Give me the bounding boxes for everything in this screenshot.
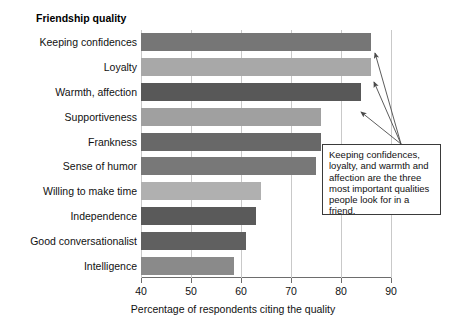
tick-70 xyxy=(291,278,292,283)
bar xyxy=(141,58,371,76)
bar-row xyxy=(141,83,391,101)
x-axis-title: Percentage of respondents citing the qua… xyxy=(0,303,466,315)
bar xyxy=(141,157,316,175)
tick-80 xyxy=(341,278,342,283)
category-label: Sense of humor xyxy=(5,157,137,175)
category-label: Frankness xyxy=(5,133,137,151)
x-axis-line xyxy=(141,277,391,278)
category-label: Intelligence xyxy=(5,257,137,275)
bar xyxy=(141,257,234,275)
category-axis-labels: Keeping confidencesLoyaltyWarmth, affect… xyxy=(2,30,137,278)
bar xyxy=(141,232,246,250)
category-label: Supportiveness xyxy=(5,108,137,126)
category-label: Loyalty xyxy=(5,58,137,76)
x-tick-label: 70 xyxy=(271,285,311,297)
bar xyxy=(141,182,261,200)
bar xyxy=(141,207,256,225)
bar xyxy=(141,108,321,126)
category-label: Good conversationalist xyxy=(5,232,137,250)
bar-row xyxy=(141,232,391,250)
tick-40 xyxy=(141,278,142,283)
x-tick-label: 60 xyxy=(221,285,261,297)
category-label: Independence xyxy=(5,207,137,225)
x-tick-label: 80 xyxy=(321,285,361,297)
bar-row xyxy=(141,58,391,76)
x-tick-label: 50 xyxy=(171,285,211,297)
tick-50 xyxy=(191,278,192,283)
category-label: Keeping confidences xyxy=(5,33,137,51)
category-label: Warmth, affection xyxy=(5,83,137,101)
bar xyxy=(141,83,361,101)
bar-row xyxy=(141,33,391,51)
chart-figure: Friendship quality Keeping confidencesLo… xyxy=(0,0,466,331)
x-tick-label: 90 xyxy=(371,285,411,297)
annotation-textbox: Keeping confidences, loyalty, and warmth… xyxy=(322,144,441,215)
tick-60 xyxy=(241,278,242,283)
bar xyxy=(141,133,321,151)
bar-row xyxy=(141,108,391,126)
chart-title: Friendship quality xyxy=(36,12,126,24)
bar-row xyxy=(141,257,391,275)
x-tick-label: 40 xyxy=(121,285,161,297)
bar xyxy=(141,33,371,51)
category-label: Willing to make time xyxy=(5,182,137,200)
tick-90 xyxy=(391,278,392,283)
